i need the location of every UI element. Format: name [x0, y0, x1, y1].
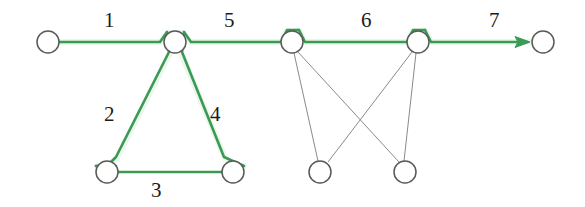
edge-label-3: 3 [151, 180, 162, 201]
flow-segment-4[interactable] [182, 32, 244, 166]
flow-segment-2[interactable] [96, 32, 169, 166]
secondary-link-group [294, 52, 416, 162]
edge-label-1: 1 [104, 10, 115, 31]
node-mid-upper-b[interactable] [407, 31, 429, 53]
link-upper-a-to-lower-b [298, 52, 399, 162]
diagram-canvas: 1 2 3 4 5 6 7 [0, 0, 585, 207]
link-upper-b-to-lower-b [404, 53, 416, 161]
node-bottom-left[interactable] [96, 161, 118, 183]
edge-label-7: 7 [489, 10, 500, 31]
edge-label-6: 6 [361, 10, 372, 31]
edge-label-4: 4 [210, 104, 221, 125]
node-mid-lower-b[interactable] [394, 161, 416, 183]
flow-path-triangle-highlight [97, 33, 244, 166]
node-hub-center[interactable] [164, 31, 186, 53]
node-mid-lower-a[interactable] [309, 161, 331, 183]
edge-label-5: 5 [224, 10, 235, 31]
node-source-left[interactable] [37, 31, 59, 53]
link-upper-b-to-lower-a [328, 52, 412, 162]
edge-label-2: 2 [104, 104, 115, 125]
node-mid-upper-a[interactable] [281, 31, 303, 53]
node-sink-right[interactable] [532, 31, 554, 53]
node-bottom-right[interactable] [222, 161, 244, 183]
